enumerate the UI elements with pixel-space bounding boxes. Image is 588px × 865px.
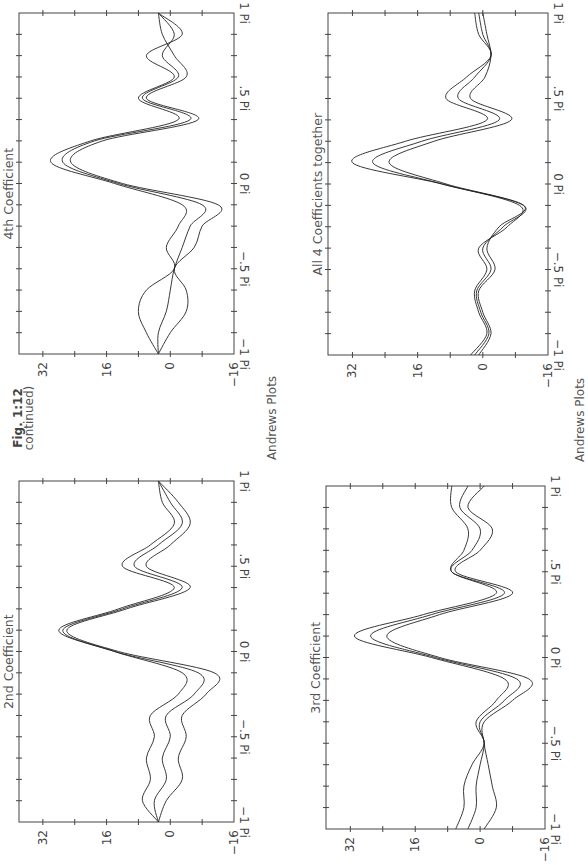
andrews-curve [387, 486, 533, 829]
andrews-curve [389, 13, 525, 355]
y-tick-label: 16 [411, 363, 425, 378]
x-tick-label: 0 Pi [551, 173, 565, 195]
plot-4th: 32160−16−1 Pi−.5 Pi0 Pi.5 Pi1 Pi4th Coef… [1, 2, 251, 387]
andrews-curve [67, 481, 220, 822]
x-tick-label: −1 Pi [237, 338, 251, 370]
running-head: Andrews Plots [573, 378, 587, 462]
andrews-curve [352, 13, 523, 355]
plot-title: 2nd Coefficient [1, 614, 16, 709]
plot-frame [19, 13, 234, 354]
andrews-curve [354, 486, 508, 829]
x-tick-label: 1 Pi [548, 475, 562, 497]
plot-all: 32160−16−1 Pi−.5 Pi0 Pi.5 Pi1 PiAll 4 Co… [310, 2, 565, 388]
x-tick-label: .5 Pi [551, 86, 565, 112]
x-tick-label: 1 Pi [551, 2, 565, 24]
y-tick-label: 0 [476, 363, 490, 371]
y-tick-label: 32 [36, 362, 50, 377]
running-head: Andrews Plots [265, 376, 279, 460]
x-tick-label: −.5 Pi [548, 725, 562, 761]
y-tick-label: 16 [408, 837, 422, 852]
figure-caption-sub: continued) [22, 386, 36, 450]
andrews-curve [63, 481, 204, 822]
plot-title: 4th Coefficient [1, 148, 16, 240]
x-tick-label: −.5 Pi [237, 719, 251, 755]
x-tick-label: 0 Pi [237, 641, 251, 663]
andrews-curve [373, 13, 527, 355]
plot-frame [328, 13, 548, 355]
y-tick-label: 0 [163, 362, 177, 370]
andrews-curve [62, 13, 206, 354]
plot-2nd: 32160−16−1 Pi−.5 Pi0 Pi.5 Pi1 Pi2nd Coef… [1, 470, 251, 855]
x-tick-label: −.5 Pi [551, 252, 565, 288]
y-tick-label: 32 [345, 363, 359, 378]
x-tick-label: −1 Pi [551, 339, 565, 371]
x-tick-label: 0 Pi [237, 173, 251, 195]
y-tick-label: 0 [473, 837, 487, 845]
x-tick-label: 0 Pi [548, 647, 562, 669]
andrews-curve [371, 486, 521, 829]
plot-title: 3rd Coefficient [308, 622, 323, 714]
plot-title: All 4 Coefficients together [310, 112, 325, 276]
y-tick-label: 16 [100, 830, 114, 845]
x-tick-label: 1 Pi [237, 470, 251, 492]
x-tick-label: −1 Pi [237, 806, 251, 838]
x-tick-label: .5 Pi [548, 559, 562, 585]
x-tick-label: −.5 Pi [237, 251, 251, 287]
y-tick-label: 32 [343, 837, 357, 852]
x-tick-label: .5 Pi [237, 553, 251, 579]
andrews-plots-figure: 32160−16−1 Pi−.5 Pi0 Pi.5 Pi1 Pi4th Coef… [0, 0, 588, 865]
y-tick-label: 0 [163, 830, 177, 838]
x-tick-label: .5 Pi [237, 85, 251, 111]
andrews-curve [70, 13, 222, 354]
x-tick-label: 1 Pi [237, 2, 251, 24]
andrews-curve [59, 481, 187, 822]
plot-frame [19, 481, 234, 822]
plot-3rd: 32160−16−1 Pi−.5 Pi0 Pi.5 Pi1 Pi3rd Coef… [308, 475, 562, 862]
y-tick-label: 32 [36, 830, 50, 845]
y-tick-label: 16 [100, 362, 114, 377]
x-tick-label: −1 Pi [548, 813, 562, 845]
